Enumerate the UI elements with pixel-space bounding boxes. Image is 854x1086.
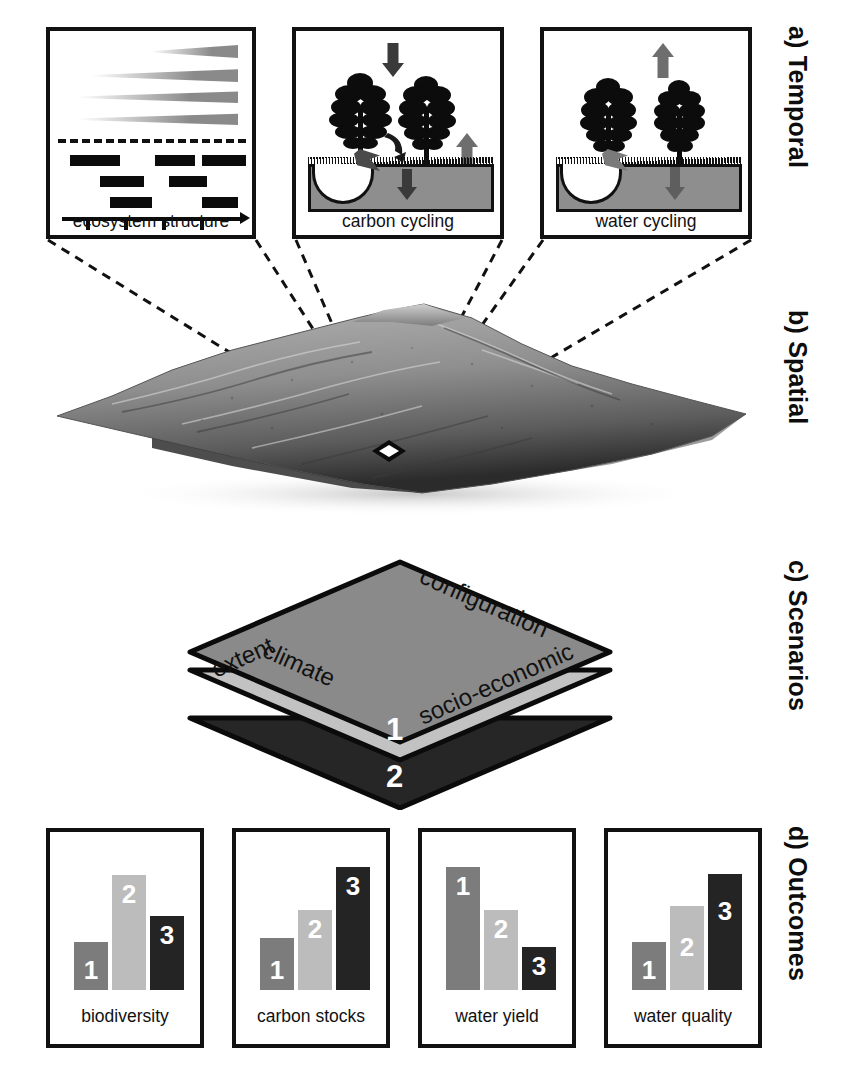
panel-caption-water-quality: water quality bbox=[608, 1006, 758, 1027]
bar-scenario-1: 1 bbox=[74, 942, 108, 990]
panel-outcome-water-yield: 1 2 3 water yield bbox=[418, 828, 576, 1048]
bar-label-2: 2 bbox=[298, 914, 332, 945]
arrow-down-soil-carbon bbox=[396, 169, 418, 203]
bar-scenario-3: 3 bbox=[150, 916, 184, 990]
panel-outcome-water-quality: 1 2 3 water quality bbox=[604, 828, 762, 1048]
panel-caption-biodiversity: biodiversity bbox=[50, 1006, 200, 1027]
bar-label-2: 2 bbox=[670, 932, 704, 963]
carbon-flux-icon bbox=[296, 31, 500, 235]
scenario-stack: extent configuration climate socio-econo… bbox=[150, 540, 670, 810]
water-flux-icon bbox=[544, 31, 748, 235]
panel-caption-carbon-cycling: carbon cycling bbox=[296, 211, 500, 232]
bar-label-1: 1 bbox=[632, 955, 666, 986]
figure-root: a) Temporal b) Spatial c) Scenarios d) O… bbox=[0, 0, 854, 1086]
bar-scenario-2: 2 bbox=[112, 875, 146, 990]
scenario-number-2: 2 bbox=[386, 759, 403, 795]
bar-label-3: 3 bbox=[336, 871, 370, 902]
bar-plot-area: 1 2 3 bbox=[258, 850, 372, 990]
panel-outcome-biodiversity: 1 2 3 biodiversity bbox=[46, 828, 204, 1048]
growth-curves-icon bbox=[50, 31, 252, 141]
bar-scenario-1: 1 bbox=[260, 938, 294, 990]
bar-scenario-3: 3 bbox=[708, 874, 742, 990]
bar-label-1: 1 bbox=[260, 955, 294, 986]
threshold-dashed-line bbox=[58, 139, 246, 143]
bar-label-2: 2 bbox=[112, 879, 146, 910]
bar-scenario-2: 2 bbox=[484, 910, 518, 990]
terrain-landscape bbox=[52, 288, 752, 518]
bar-label-1: 1 bbox=[74, 955, 108, 986]
section-label-outcomes: d) Outcomes bbox=[783, 826, 812, 981]
section-label-scenarios: c) Scenarios bbox=[783, 560, 812, 711]
bar-scenario-2: 2 bbox=[670, 906, 704, 990]
panel-water-cycling: water cycling bbox=[540, 27, 752, 239]
bar-plot-area: 1 2 3 bbox=[72, 850, 186, 990]
bar-label-3: 3 bbox=[522, 951, 556, 982]
panel-ecosystem-structure: ecosystem structure bbox=[46, 27, 256, 239]
bar-label-3: 3 bbox=[150, 920, 184, 951]
panel-carbon-cycling: carbon cycling bbox=[292, 27, 504, 239]
panel-outcome-carbon-stocks: 1 2 3 carbon stocks bbox=[232, 828, 390, 1048]
bar-scenario-1: 1 bbox=[446, 867, 480, 990]
panel-caption-ecosystem-structure: ecosystem structure bbox=[50, 211, 252, 232]
arrow-down-percolation bbox=[664, 167, 686, 203]
panel-caption-water-yield: water yield bbox=[422, 1006, 572, 1027]
bar-label-2: 2 bbox=[484, 914, 518, 945]
bar-label-3: 3 bbox=[708, 896, 742, 927]
panel-caption-water-cycling: water cycling bbox=[544, 211, 748, 232]
bar-label-1: 1 bbox=[446, 871, 480, 902]
bar-plot-area: 1 2 3 bbox=[630, 850, 744, 990]
bar-plot-area: 1 2 3 bbox=[444, 850, 558, 990]
bar-scenario-2: 2 bbox=[298, 910, 332, 990]
bar-scenario-3: 3 bbox=[336, 867, 370, 990]
bar-scenario-3: 3 bbox=[522, 947, 556, 990]
scenario-number-1: 1 bbox=[386, 712, 403, 748]
panel-caption-carbon-stocks: carbon stocks bbox=[236, 1006, 386, 1027]
bar-scenario-1: 1 bbox=[632, 942, 666, 990]
